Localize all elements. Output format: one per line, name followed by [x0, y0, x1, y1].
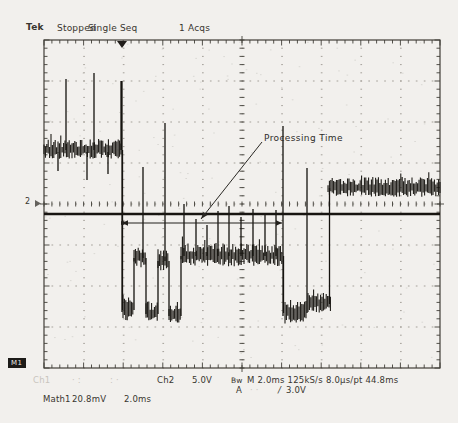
oscilloscope-screenshot: Tek Stopped Single Seq 1 Acqs Processing… — [0, 0, 458, 423]
trigger-faded: · · — [250, 386, 259, 395]
math1-label: Math1 — [43, 395, 71, 404]
scope-display — [0, 0, 458, 423]
graticule-grid — [52, 48, 433, 368]
acquisition-count: 1 Acqs — [179, 24, 210, 33]
math1-scale: 20.8mV — [72, 395, 106, 404]
math1-timebase: 2.0ms — [124, 395, 151, 404]
faded-readout-1: Ch1 — [33, 376, 50, 385]
bandwidth-limit: Bw — [231, 377, 243, 385]
photo-grain — [45, 40, 434, 364]
faded-readout-3: : · — [110, 376, 119, 385]
trigger-level: 3.0V — [286, 386, 306, 395]
faded-readout-2: · : — [72, 376, 81, 385]
tek-logo: Tek — [26, 23, 44, 32]
processing-time-label: Processing Time — [264, 134, 343, 143]
callout-arrow — [201, 142, 262, 219]
trigger-marker-icon — [117, 41, 127, 48]
math1-position-marker: M1 — [8, 358, 26, 368]
measurement-arrow — [121, 220, 282, 226]
timebase-readout: M 2.0ms 125kS/s — [247, 376, 323, 385]
trigger-source: A — [236, 386, 242, 395]
ch2-position-marker: 2 — [25, 198, 30, 206]
sample-resolution: 8.0µs/pt 44.8ms — [326, 376, 398, 385]
trigger-slope-icon: / — [278, 386, 281, 395]
ch2-marker-arrow-icon — [35, 200, 41, 207]
ch2-scale: 5.0V — [192, 376, 212, 385]
acquisition-mode: Single Seq — [88, 24, 138, 33]
ch2-label: Ch2 — [157, 376, 174, 385]
